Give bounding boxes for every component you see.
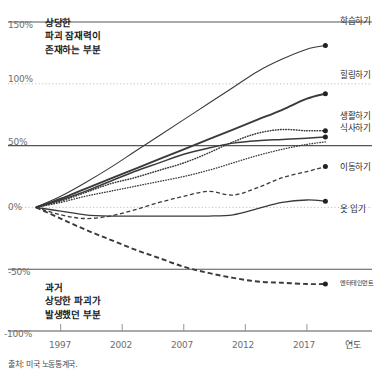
endpoint-dot-2 (323, 128, 328, 133)
annotation-upper-line-3: 존재하는 부분 (45, 43, 100, 56)
x-axis-title: 연도 (345, 341, 361, 350)
x-tick-group (61, 324, 307, 331)
endpoint-dot-4 (323, 164, 328, 169)
series-line-6 (36, 200, 325, 216)
y-tick-label-neg50: -50% (8, 268, 30, 277)
endpoint-dot-3 (323, 134, 328, 139)
x-tick-label-2017: 2017 (286, 341, 322, 350)
x-tick-label-2012: 2012 (225, 341, 261, 350)
y-tick-label-150: 150% (8, 21, 33, 30)
series-label-clothing: 옷 입기 (340, 205, 365, 214)
y-tick-label-50: 50% (8, 138, 27, 147)
series-line-2 (36, 129, 325, 207)
series-label-living: 생활하기 (340, 112, 371, 121)
annotation-upper: 상당한 파괴 잠재력이 존재하는 부분 (45, 16, 100, 56)
annotation-upper-line-1: 상당한 (45, 16, 100, 29)
y-tick-label-0: 0% (8, 203, 22, 212)
annotation-lower-line-3: 발생했던 부분 (45, 308, 100, 321)
series-line-7 (36, 207, 325, 284)
annotation-upper-line-2: 파괴 잠재력이 (45, 29, 100, 42)
source-note: 출처: 미국 노동통계국. (8, 361, 77, 369)
series-line-0 (36, 45, 325, 207)
line-chart-svg (0, 0, 379, 379)
x-tick-label-1997: 1997 (42, 341, 78, 350)
series-label-moving: 이동하기 (340, 163, 371, 172)
annotation-lower-line-2: 상당한 파괴가 (45, 294, 100, 307)
endpoint-dot-1 (323, 91, 328, 96)
x-tick-label-2002: 2002 (103, 341, 139, 350)
series-line-1 (36, 94, 325, 208)
y-tick-label-neg100: -100% (4, 330, 32, 339)
series-label-healing: 힐링하기 (340, 71, 371, 80)
annotation-lower-line-1: 과거 (45, 281, 100, 294)
endpoint-dot-group (323, 43, 328, 287)
endpoint-dot-5 (323, 199, 328, 204)
x-tick-label-2007: 2007 (164, 341, 200, 350)
series-label-entertainment: 엔터테인먼트 (340, 280, 373, 286)
series-line-5 (36, 167, 325, 219)
series-label-learning: 학습하기 (340, 17, 371, 26)
annotation-lower: 과거 상당한 파괴가 발생했던 부분 (45, 281, 100, 321)
endpoint-dot-6 (323, 282, 328, 287)
endpoint-dot-0 (323, 43, 328, 48)
y-tick-label-100: 100% (8, 75, 33, 84)
chart-container: 150% 100% 50% 0% -50% -100% 1997 2002 20… (0, 0, 379, 379)
series-label-eating: 식사하기 (340, 124, 371, 133)
series-path-group (36, 45, 325, 284)
